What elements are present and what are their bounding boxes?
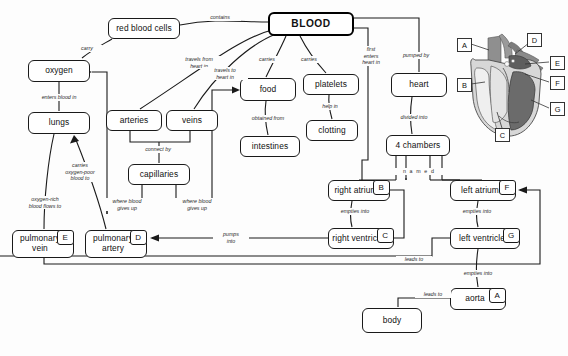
node-label: left atrium <box>458 186 502 196</box>
heart-label-d: D <box>527 33 542 47</box>
node-pulmonary_artery[interactable]: pulmonary arteryD <box>85 230 147 258</box>
link-label-where_gives_up_2: where blood gives up <box>172 198 222 211</box>
node-label: arteries <box>117 116 152 126</box>
link-label-help_in: help in <box>313 103 347 110</box>
link-label-carries_platelets: carries <box>294 56 324 63</box>
heart-label-g: G <box>550 102 565 116</box>
heart-label-f: F <box>550 76 565 90</box>
concept-map-canvas: BLOODred blood cellsoxygenlungsarteriesv… <box>0 0 568 356</box>
node-platelets[interactable]: platelets <box>303 74 359 95</box>
node-label: BLOOD <box>288 18 333 30</box>
node-clotting[interactable]: clotting <box>306 120 358 141</box>
link-label-empties_into_aorta: empties into <box>453 270 503 277</box>
node-label: red blood cells <box>113 24 175 34</box>
node-tag-g: G <box>503 228 520 243</box>
node-label: veins <box>179 116 205 126</box>
heart-label-e: E <box>550 56 565 70</box>
node-label: 4 chambers <box>393 141 444 151</box>
node-tag-e: E <box>57 230 74 245</box>
heart-label-b: B <box>457 78 472 92</box>
node-oxygen[interactable]: oxygen <box>28 60 90 82</box>
link-label-contains: contains <box>199 14 241 21</box>
heart-label-c: C <box>495 128 510 142</box>
link-label-where_gives_up_1: where blood gives up <box>102 198 152 211</box>
node-right_ventricle[interactable]: right ventricleC <box>328 228 394 249</box>
link-label-leads_to_lv: leads to <box>396 256 432 263</box>
link-label-first_enters: first enters heart in <box>354 46 388 66</box>
node-left_ventricle[interactable]: left ventricleG <box>450 228 520 249</box>
link-label-carry: carry <box>72 45 102 52</box>
link-label-travels_to: travels to heart in <box>202 67 248 80</box>
node-lungs[interactable]: lungs <box>28 112 90 134</box>
link-label-pumps_into: pumps into <box>213 231 249 244</box>
link-label-named: n a m e d <box>393 168 445 175</box>
node-label: clotting <box>315 126 348 136</box>
node-tag-d: D <box>130 230 147 245</box>
node-veins[interactable]: veins <box>166 110 218 131</box>
node-tag-c: C <box>377 228 394 243</box>
link-label-empties_into_right: empties into <box>330 208 380 215</box>
node-four_chambers[interactable]: 4 chambers <box>386 135 450 156</box>
link-label-oxygen_rich: oxygen-rich blood flows to <box>16 196 74 209</box>
link-label-connect_by: connect by <box>133 146 183 153</box>
heart-label-a: A <box>457 38 472 52</box>
node-tag-a: A <box>489 288 506 303</box>
node-food[interactable]: food <box>240 78 296 101</box>
node-tag-b: B <box>373 180 390 195</box>
node-left_atrium[interactable]: left atriumF <box>450 180 516 201</box>
node-intestines[interactable]: intestines <box>240 136 300 157</box>
link-label-carries_oxygen_poor: carries oxygen-poor blood to <box>54 162 106 182</box>
node-arteries[interactable]: arteries <box>106 110 162 131</box>
node-label: heart <box>406 80 432 90</box>
node-label: lungs <box>46 118 73 128</box>
node-right_atrium[interactable]: right atriumB <box>328 180 390 201</box>
link-label-enters_blood_in: enters blood in <box>27 94 91 101</box>
node-capillaries[interactable]: capillaries <box>128 164 190 185</box>
node-pulmonary_vein[interactable]: pulmonary veinE <box>12 230 74 258</box>
node-label: food <box>257 85 280 95</box>
node-body[interactable]: body <box>362 308 422 333</box>
link-label-pumped_by: pumped by <box>391 52 441 59</box>
node-aorta[interactable]: aortaA <box>450 288 506 310</box>
link-label-leads_to_body: leads to <box>415 291 451 298</box>
link-label-divided_into: divided into <box>389 114 439 121</box>
node-red_blood_cells[interactable]: red blood cells <box>108 18 180 39</box>
node-label: intestines <box>249 142 291 152</box>
node-label: aorta <box>462 294 488 304</box>
node-label: oxygen <box>42 66 76 76</box>
node-label: platelets <box>312 80 350 90</box>
link-label-empties_into_left: empties into <box>452 208 502 215</box>
node-label: body <box>380 316 405 326</box>
node-heart[interactable]: heart <box>391 73 447 97</box>
link-label-obtained_from: obtained from <box>240 115 296 122</box>
node-blood[interactable]: BLOOD <box>268 12 354 36</box>
link-label-carries_food: carries <box>252 56 282 63</box>
node-tag-f: F <box>499 180 516 195</box>
node-label: capillaries <box>137 170 181 180</box>
node-label: left ventricle <box>456 234 508 244</box>
heart-anatomy-figure: ADEBFGC <box>455 24 567 146</box>
